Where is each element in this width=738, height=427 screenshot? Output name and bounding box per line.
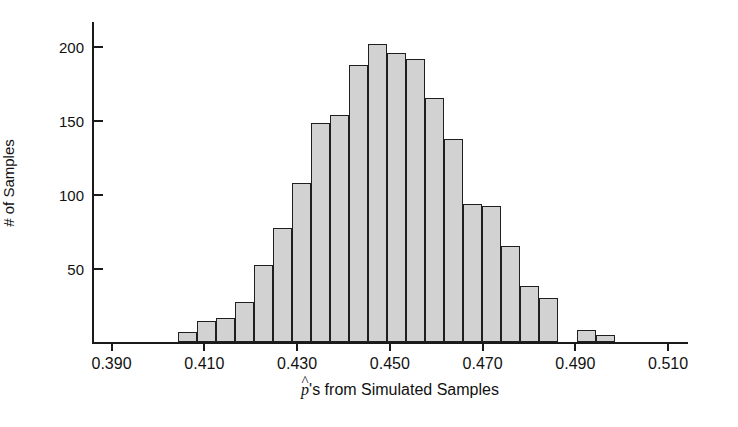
histogram-bar	[425, 98, 444, 342]
y-axis-label: # of Samples	[0, 139, 17, 227]
x-axis-tick-label: 0.470	[463, 356, 503, 372]
histogram-bar	[406, 59, 425, 342]
histogram-bar	[178, 332, 197, 342]
histogram-bar	[520, 286, 539, 342]
histogram-figure: # of Samples 50100150200 0.3900.4100.430…	[0, 0, 738, 427]
histogram-bar	[311, 123, 330, 342]
histogram-bar	[273, 228, 292, 342]
histogram-bar	[254, 265, 273, 342]
y-axis-tick	[94, 268, 103, 270]
y-axis-tick	[94, 46, 103, 48]
x-axis-tick	[111, 342, 113, 351]
x-axis-tick-label: 0.430	[277, 356, 317, 372]
x-axis-tick-label: 0.510	[648, 356, 688, 372]
histogram-bar	[349, 65, 368, 342]
histogram-bar	[482, 206, 501, 342]
x-axis-tick	[389, 342, 391, 351]
x-axis-tick	[482, 342, 484, 351]
histogram-bar	[539, 298, 558, 342]
y-axis-line	[92, 22, 94, 344]
y-axis-tick	[94, 120, 103, 122]
circumflex-accent: ^	[301, 372, 308, 390]
y-axis-tick-label: 200	[59, 39, 84, 54]
y-axis-tick	[94, 194, 103, 196]
histogram-bar	[235, 302, 254, 342]
histogram-bar	[216, 318, 235, 342]
histogram-bar	[596, 335, 615, 342]
x-axis-tick	[574, 342, 576, 351]
x-axis-label: ^p's from Simulated Samples	[301, 381, 499, 399]
histogram-bar	[197, 321, 216, 342]
histogram-bar	[368, 44, 387, 342]
p-hat-symbol: ^p	[301, 381, 309, 399]
histogram-bar	[501, 246, 520, 342]
histogram-bar	[387, 53, 406, 342]
histogram-bar	[577, 330, 596, 342]
y-axis-tick-label: 150	[59, 113, 84, 128]
y-axis-tick-label: 50	[67, 261, 84, 276]
histogram-bar	[292, 183, 311, 342]
x-axis-tick-label: 0.490	[555, 356, 595, 372]
plot-area: 50100150200 0.3900.4100.4300.4500.4700.4…	[92, 22, 688, 344]
x-axis-tick-label: 0.390	[92, 356, 132, 372]
histogram-bar	[463, 204, 482, 342]
x-axis-tick	[667, 342, 669, 351]
x-axis-tick-label: 0.450	[370, 356, 410, 372]
histogram-bar	[444, 139, 463, 342]
x-axis-tick	[296, 342, 298, 351]
x-axis-label-rest: 's from Simulated Samples	[309, 381, 499, 398]
x-axis-tick-label: 0.410	[184, 356, 224, 372]
y-axis-tick-label: 100	[59, 187, 84, 202]
histogram-bar	[330, 115, 349, 342]
x-axis-tick	[203, 342, 205, 351]
